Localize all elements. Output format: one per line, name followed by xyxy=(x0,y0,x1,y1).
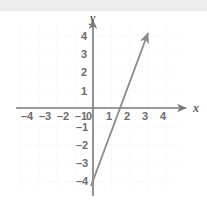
x-tick-label-neg3: –3 xyxy=(39,111,51,122)
y-axis-label: y xyxy=(90,12,95,24)
y-tick-label-4: 4 xyxy=(81,31,87,42)
x-tick-label-3: 3 xyxy=(142,111,148,122)
y-tick-label-neg3: –3 xyxy=(76,158,88,169)
y-tick-label-3: 3 xyxy=(81,49,87,60)
y-tick-label-1: 1 xyxy=(81,86,87,97)
coordinate-plane xyxy=(0,0,207,204)
x-tick-label-1: 1 xyxy=(106,111,112,122)
y-tick-label-neg2: –2 xyxy=(76,140,88,151)
y-tick-label-neg4: –4 xyxy=(76,176,88,187)
y-tick-label-neg1: –1 xyxy=(76,122,88,133)
x-tick-label-neg2: –2 xyxy=(57,111,69,122)
y-tick-label-2: 2 xyxy=(81,67,87,78)
x-tick-label-neg4: –4 xyxy=(21,111,33,122)
graph-figure: y x –4 –3 –2 –1 0 1 2 3 4 4 3 2 1 –1 –2 … xyxy=(0,0,207,204)
x-tick-label-4: 4 xyxy=(160,111,166,122)
x-axis-label: x xyxy=(193,102,199,114)
x-tick-label-2: 2 xyxy=(124,111,130,122)
